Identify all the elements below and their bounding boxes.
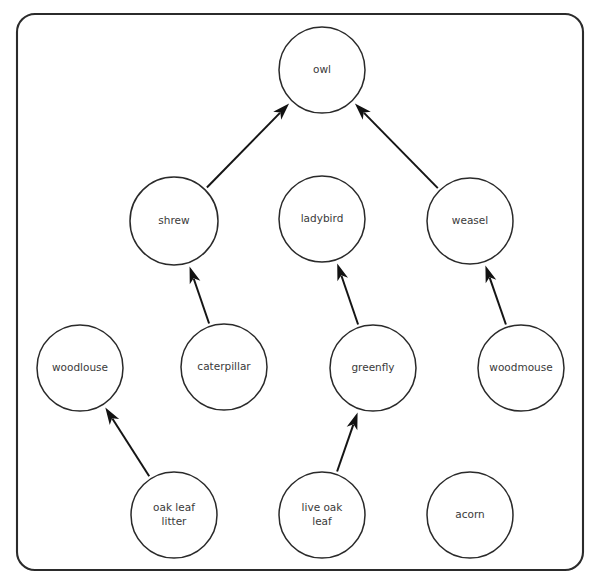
edge-line: [341, 276, 358, 325]
edge-line: [207, 113, 280, 188]
node-circle[interactable]: [330, 325, 416, 411]
node-woodmouse[interactable]: woodmouse: [478, 325, 564, 411]
node-circle[interactable]: [279, 472, 365, 558]
node-circle[interactable]: [427, 472, 513, 558]
node-owl[interactable]: owl: [279, 27, 365, 113]
node-circle[interactable]: [478, 325, 564, 411]
edges-layer: [105, 104, 506, 477]
node-circle[interactable]: [131, 472, 217, 558]
edge-line: [337, 425, 353, 472]
node-shrew[interactable]: shrew: [130, 177, 218, 265]
edge-caterpillar-shrew: [190, 266, 210, 323]
edge-line: [490, 278, 506, 325]
node-oak-leaf-litter[interactable]: oak leaflitter: [131, 472, 217, 558]
node-circle[interactable]: [279, 27, 365, 113]
edge-weasel-owl: [355, 104, 438, 189]
node-circle[interactable]: [279, 176, 365, 262]
edge-greenfly-ladybird: [337, 263, 358, 324]
arrowhead-icon: [105, 408, 119, 425]
node-circle[interactable]: [427, 178, 513, 264]
edge-oak-leaf-litter-woodlouse: [105, 408, 149, 477]
node-caterpillar[interactable]: caterpillar: [181, 324, 267, 410]
node-acorn[interactable]: acorn: [427, 472, 513, 558]
nodes-layer: owlshrewladybirdweaselwoodlousecaterpill…: [37, 27, 564, 558]
edge-live-oak-leaf-greenfly: [337, 412, 358, 471]
node-circle[interactable]: [37, 325, 123, 411]
node-circle[interactable]: [181, 324, 267, 410]
edge-line: [194, 279, 209, 324]
node-ladybird[interactable]: ladybird: [279, 176, 365, 262]
node-greenfly[interactable]: greenfly: [330, 325, 416, 411]
edge-shrew-owl: [207, 104, 289, 188]
node-weasel[interactable]: weasel: [427, 178, 513, 264]
edge-line: [364, 113, 438, 188]
edge-woodmouse-weasel: [485, 265, 506, 324]
food-web-diagram: owlshrewladybirdweaselwoodlousecaterpill…: [0, 0, 599, 583]
diagram-canvas: owlshrewladybirdweaselwoodlousecaterpill…: [0, 0, 599, 583]
node-circle[interactable]: [130, 177, 218, 265]
node-woodlouse[interactable]: woodlouse: [37, 325, 123, 411]
node-live-oak-leaf[interactable]: live oakleaf: [279, 472, 365, 558]
edge-line: [112, 419, 149, 477]
